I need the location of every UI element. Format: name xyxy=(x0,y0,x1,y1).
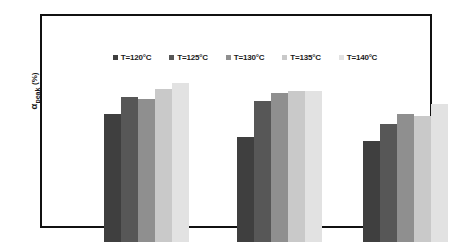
bar-1-3[interactable] xyxy=(288,91,305,241)
bar-group-1 xyxy=(237,33,322,242)
y-axis-label: αpeak (%) xyxy=(27,51,41,131)
bar-1-0[interactable] xyxy=(237,137,254,242)
bar-1-1[interactable] xyxy=(254,101,271,241)
bar-0-0[interactable] xyxy=(104,114,121,241)
plot-frame: T=120°CT=125°CT=130°CT=135°CT=140°C xyxy=(40,14,432,228)
bar-0-2[interactable] xyxy=(138,99,155,241)
bar-2-2[interactable] xyxy=(397,114,414,241)
y-axis-symbol: α xyxy=(28,104,39,110)
bar-2-4[interactable] xyxy=(431,104,448,242)
bar-group-0 xyxy=(104,33,189,242)
bar-1-2[interactable] xyxy=(271,93,288,241)
bar-0-3[interactable] xyxy=(155,89,172,242)
bar-2-1[interactable] xyxy=(380,124,397,241)
bar-0-1[interactable] xyxy=(121,97,138,241)
figure-container: αpeak (%) T=120°CT=125°CT=130°CT=135°CT=… xyxy=(0,0,452,247)
bar-2-3[interactable] xyxy=(414,116,431,241)
bar-1-4[interactable] xyxy=(305,91,322,241)
plot-area xyxy=(85,33,452,242)
bar-2-0[interactable] xyxy=(363,141,380,241)
bar-group-2 xyxy=(363,33,448,242)
bar-0-4[interactable] xyxy=(172,83,189,242)
y-axis-unit: (%) xyxy=(30,73,39,85)
